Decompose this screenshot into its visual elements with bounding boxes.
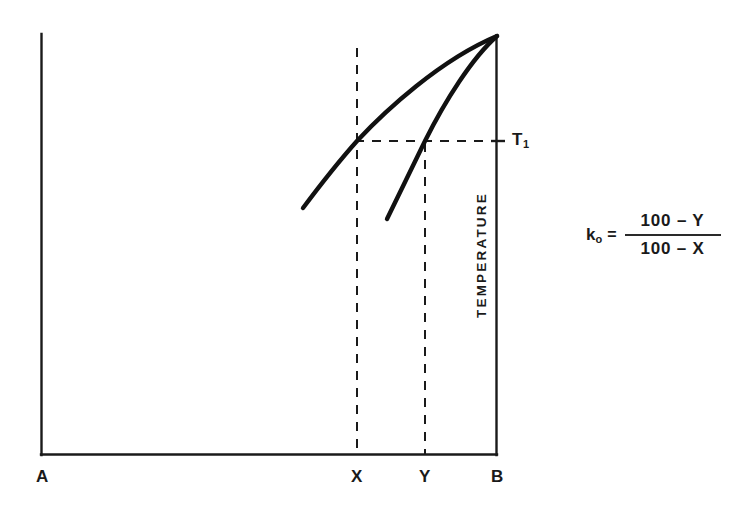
y-axis-title: TEMPERATURE xyxy=(474,175,489,335)
x-axis-label-a: A xyxy=(36,468,49,485)
equation-numerator: 100 – Y xyxy=(637,210,709,232)
liquidus-curve xyxy=(303,36,497,208)
equation-k-subscript: o xyxy=(595,233,602,245)
equation-equals-sign: = xyxy=(607,226,616,244)
x-axis-label-y: Y xyxy=(419,468,431,485)
t1-tick-label: T1 xyxy=(512,131,530,150)
x-axis-label-b: B xyxy=(491,468,504,485)
x-axis-label-x: X xyxy=(351,468,363,485)
t1-tick-label-subscript: 1 xyxy=(523,138,530,150)
phase-diagram-figure: A X Y B T1 TEMPERATURE ko = 100 – Y 100 … xyxy=(0,0,744,511)
equation-fraction-bar xyxy=(625,234,721,236)
t1-tick-label-text: T xyxy=(512,130,523,149)
equation-lhs: ko xyxy=(586,225,602,245)
partition-coefficient-equation: ko = 100 – Y 100 – X xyxy=(586,210,721,260)
equation-fraction: 100 – Y 100 – X xyxy=(625,210,721,260)
equation-denominator: 100 – X xyxy=(636,238,708,260)
